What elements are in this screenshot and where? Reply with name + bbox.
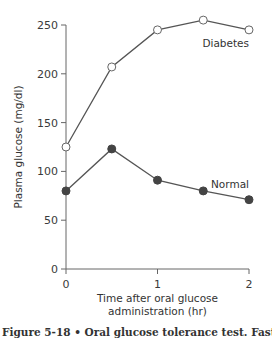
- series-label: Normal: [211, 178, 249, 190]
- filled-circle-marker: [154, 176, 162, 184]
- open-circle-marker: [245, 26, 253, 34]
- series-normal: Normal: [62, 145, 253, 204]
- x-tick-label: 0: [63, 278, 70, 291]
- x-tick-label: 1: [154, 278, 161, 291]
- x-axis: 012: [63, 269, 253, 291]
- filled-circle-marker: [108, 145, 116, 153]
- series-line: [66, 149, 249, 200]
- y-tick-label: 50: [44, 214, 58, 227]
- y-tick-label: 200: [37, 68, 58, 81]
- x-tick-label: 2: [246, 278, 253, 291]
- filled-circle-marker: [62, 187, 70, 195]
- open-circle-marker: [62, 143, 70, 151]
- series-diabetes: Diabetes: [62, 16, 253, 151]
- line-chart: 050100150200250 012 Plasma glucose (mg/d…: [0, 0, 272, 339]
- x-axis-title-line-1: Time after oral glucose: [66, 292, 249, 305]
- y-tick-label: 250: [37, 19, 58, 32]
- x-axis-title-line-2: administration (hr): [66, 305, 249, 318]
- filled-circle-marker: [199, 187, 207, 195]
- y-axis-title: Plasma glucose (mg/dl): [12, 85, 24, 208]
- filled-circle-marker: [245, 196, 253, 204]
- open-circle-marker: [199, 16, 207, 24]
- figure-caption: Figure 5-18 • Oral glucose tolerance tes…: [2, 326, 272, 338]
- open-circle-marker: [108, 63, 116, 71]
- series-label: Diabetes: [202, 37, 249, 49]
- y-tick-label: 0: [51, 263, 58, 276]
- y-tick-label: 150: [37, 117, 58, 130]
- x-axis-title: Time after oral glucose administration (…: [66, 292, 249, 318]
- open-circle-marker: [154, 26, 162, 34]
- series-layer: DiabetesNormal: [62, 16, 253, 204]
- y-tick-label: 100: [37, 165, 58, 178]
